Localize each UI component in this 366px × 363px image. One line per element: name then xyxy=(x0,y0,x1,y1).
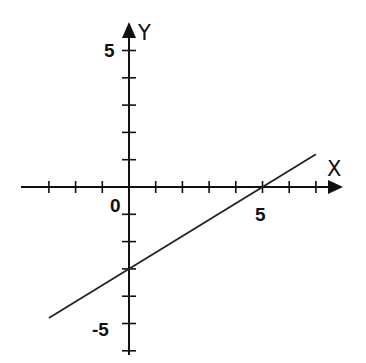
x-axis xyxy=(21,180,343,194)
coordinate-plane: Y X 0 5 5 -5 xyxy=(0,0,366,363)
y-axis-arrow-icon xyxy=(122,22,136,38)
x-tick-label-5: 5 xyxy=(255,204,266,225)
y-tick-label-5: 5 xyxy=(104,40,115,61)
origin-label: 0 xyxy=(110,195,121,216)
y-tick-label-neg5: -5 xyxy=(92,319,109,340)
x-axis-arrow-icon xyxy=(328,180,343,194)
y-axis-label: Y xyxy=(137,21,151,45)
linear-function-line xyxy=(49,154,316,318)
x-axis-label: X xyxy=(327,157,341,181)
y-axis xyxy=(122,22,136,355)
